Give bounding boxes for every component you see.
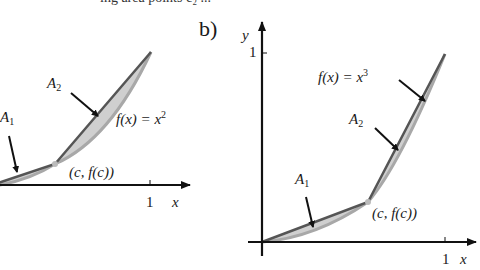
panel-b-chart	[248, 22, 476, 256]
x-axis-label-right: x	[460, 252, 467, 267]
arrow-a1-right	[306, 197, 313, 227]
panel-label-b: b)	[199, 18, 217, 40]
label-a2-right: A2	[349, 112, 363, 129]
y-tick-label-1-right: 1	[249, 45, 257, 60]
arrow-a1-left	[9, 136, 17, 172]
x-axis-label-left: x	[172, 195, 179, 210]
label-a2-left: A2	[47, 76, 61, 93]
arrow-a2-left	[71, 93, 98, 116]
label-point-left: (c, f(c))	[69, 165, 114, 180]
x-tick-label-1-right: 1	[442, 252, 450, 267]
figure-canvas	[0, 0, 480, 270]
top-cut-text: ing area points c₂ ...	[100, 0, 211, 5]
label-point-right: (c, f(c))	[372, 206, 417, 221]
arrow-a2-right	[375, 128, 398, 150]
point-c-right	[365, 199, 371, 205]
x-tick-label-1-left: 1	[146, 195, 154, 210]
label-func-right: f(x) = x3	[318, 68, 368, 85]
arrow-func-right	[399, 80, 425, 101]
label-a1-right: A1	[295, 172, 309, 189]
label-func-left: f(x) = x2	[116, 110, 166, 127]
y-axis-label-right: y	[242, 28, 249, 43]
point-c-left	[52, 161, 58, 167]
label-a1-left: A1	[0, 110, 14, 127]
